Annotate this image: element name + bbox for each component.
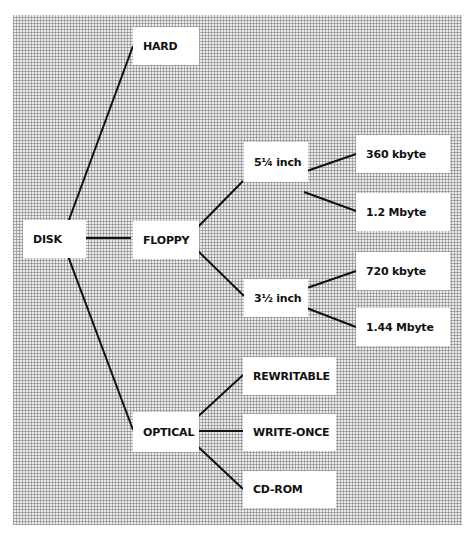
node-f35: 3½ inch	[244, 279, 308, 317]
node-label: 720 kbyte	[366, 265, 426, 278]
node-m144: 1.44 Mbyte	[356, 308, 450, 346]
node-rewritable: REWRITABLE	[243, 357, 336, 395]
node-hard: HARD	[133, 27, 199, 65]
node-label: REWRITABLE	[253, 370, 330, 383]
node-floppy: FLOPPY	[133, 221, 199, 259]
edge-disk-hard	[66, 46, 133, 228]
edge-floppy-f525	[196, 181, 243, 229]
node-m12: 1.2 Mbyte	[356, 193, 450, 231]
node-label: 1.44 Mbyte	[366, 321, 434, 334]
edge-disk-optical	[65, 248, 133, 430]
edge-f525-m12	[304, 192, 356, 211]
node-f525: 5¼ inch	[244, 142, 308, 182]
node-label: FLOPPY	[143, 234, 189, 247]
edge-floppy-f35	[196, 249, 244, 296]
node-k360: 360 kbyte	[356, 135, 450, 173]
node-label: 5¼ inch	[254, 156, 301, 169]
node-writeonce: WRITE-ONCE	[243, 414, 336, 451]
edge-f35-m144	[304, 307, 356, 327]
edge-optical-cdrom	[192, 441, 243, 489]
node-disk: DISK	[23, 220, 86, 258]
node-label: CD-ROM	[253, 483, 303, 496]
edge-f35-k720	[304, 271, 356, 289]
node-label: 360 kbyte	[366, 148, 426, 161]
node-cdrom: CD-ROM	[243, 471, 336, 508]
edge-f525-k360	[304, 154, 356, 172]
node-optical: OPTICAL	[133, 412, 199, 452]
node-label: 1.2 Mbyte	[366, 206, 426, 219]
node-label: WRITE-ONCE	[253, 426, 329, 439]
node-label: 3½ inch	[254, 292, 301, 305]
edge-optical-rewritable	[192, 375, 243, 422]
node-k720: 720 kbyte	[356, 252, 450, 290]
node-label: OPTICAL	[143, 426, 194, 439]
node-label: DISK	[33, 233, 62, 246]
node-label: HARD	[143, 40, 178, 53]
